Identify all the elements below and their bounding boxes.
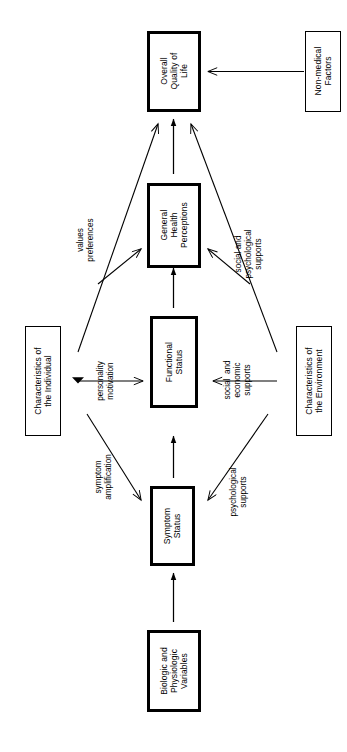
- diagram-canvas: Overall Quality of Life Non-medical Fact…: [0, 0, 347, 752]
- node-label: Characteristics of the Individual: [33, 347, 53, 414]
- node-characteristics-of-the-environment[interactable]: Characteristics of the Environment: [296, 326, 332, 436]
- edge-label-psychological-supports: psychological supports: [229, 456, 249, 528]
- edge-label-social-and-economic-supports: social and economic supports: [223, 349, 253, 411]
- edge-individual-to-general-health: [98, 249, 141, 284]
- node-non-medical-factors[interactable]: Non-medical Factors: [305, 31, 341, 112]
- node-label: Non-medical Factors: [313, 47, 333, 96]
- edge-label-social-and-psychological-supports: social and psychological supports: [234, 214, 264, 294]
- edge-label-symptom-amplification: symptom amplification: [94, 443, 114, 511]
- edge-label-personality-motivation: personality motivation: [96, 350, 116, 412]
- node-general-health-perceptions[interactable]: General Health Perceptions: [147, 183, 201, 268]
- edge-individual-tail-bar: [72, 377, 84, 383]
- node-label: Biologic and Physiologic Variables: [159, 647, 189, 695]
- node-label: Characteristics of the Environment: [304, 347, 324, 414]
- node-characteristics-of-the-individual[interactable]: Characteristics of the Individual: [25, 326, 61, 436]
- node-functional-status[interactable]: Functional Status: [150, 316, 198, 408]
- node-overall-quality-of-life[interactable]: Overall Quality of Life: [147, 31, 201, 112]
- node-symptom-status[interactable]: Symptom Status: [150, 486, 195, 566]
- edge-label-values-preferences: values preferences: [76, 208, 96, 272]
- node-label: General Health Perceptions: [159, 202, 189, 248]
- node-biologic-and-physiologic-variables[interactable]: Biologic and Physiologic Variables: [147, 630, 201, 712]
- node-label: Symptom Status: [162, 508, 182, 545]
- node-label: Overall Quality of Life: [159, 53, 189, 90]
- node-label: Functional Status: [164, 342, 184, 382]
